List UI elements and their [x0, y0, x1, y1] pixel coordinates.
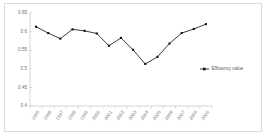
data-point-2002: [120, 37, 122, 39]
legend-label-efficiency-value: Efficiency value: [212, 66, 244, 71]
data-point-2007: [181, 32, 183, 34]
y-tick-label-0-6: 0.6: [21, 29, 28, 34]
legend-marker-square: [203, 68, 206, 71]
y-tick-label-0-5: 0.5: [21, 66, 28, 71]
data-point-1995: [35, 26, 37, 28]
x-tick-label-2002: 2002: [115, 109, 125, 121]
x-tick-labels: 1995199619971998199920002001200220032004…: [30, 109, 210, 121]
x-tick-label-2001: 2001: [103, 109, 113, 121]
x-tick-label-1998: 1998: [67, 109, 77, 121]
x-tick-label-2005: 2005: [152, 109, 162, 121]
x-tick-label-2009: 2009: [200, 109, 210, 121]
x-tick-label-1999: 1999: [79, 109, 89, 121]
data-point-2003: [132, 49, 134, 51]
data-point-2004: [144, 63, 146, 65]
x-tick-label-2003: 2003: [127, 109, 137, 121]
x-tick-label-2007: 2007: [176, 109, 186, 121]
data-point-2009: [205, 23, 207, 25]
x-tick-label-1995: 1995: [30, 109, 40, 121]
y-tick-label-0-4: 0.4: [21, 103, 28, 108]
data-point-1999: [84, 30, 86, 32]
data-point-2001: [108, 45, 110, 47]
x-tick-label-1996: 1996: [43, 109, 53, 121]
x-tick-label-1997: 1997: [55, 109, 65, 121]
y-tick-label-0-45: 0.45: [18, 85, 27, 90]
data-point-2000: [96, 32, 98, 34]
x-tick-marks: [30, 106, 212, 109]
series-line-efficiency-value: [36, 24, 206, 64]
chart-legend: Efficiency value: [200, 66, 244, 71]
data-point-1997: [59, 38, 61, 40]
x-tick-label-2000: 2000: [91, 109, 101, 121]
line-chart: 0.40.450.50.550.60.65 199519961997199819…: [0, 0, 270, 138]
series-efficiency-value: [35, 23, 207, 65]
data-point-2006: [168, 42, 170, 44]
y-tick-label-0-65: 0.65: [18, 10, 27, 15]
x-tick-label-2008: 2008: [188, 109, 198, 121]
data-point-2008: [193, 28, 195, 30]
x-tick-label-2006: 2006: [164, 109, 174, 121]
data-point-2005: [156, 56, 158, 58]
data-point-1998: [71, 28, 73, 30]
x-tick-label-2004: 2004: [140, 109, 150, 121]
y-tick-label-0-55: 0.55: [18, 47, 27, 52]
data-point-1996: [47, 32, 49, 34]
